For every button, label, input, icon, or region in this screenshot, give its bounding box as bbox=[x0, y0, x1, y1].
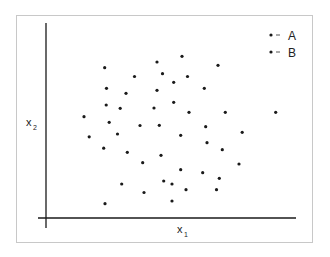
data-point bbox=[138, 124, 141, 127]
svg-text:B: B bbox=[288, 46, 296, 60]
data-point bbox=[158, 124, 161, 127]
data-point bbox=[203, 87, 206, 90]
data-point bbox=[152, 106, 155, 109]
data-point bbox=[205, 141, 208, 144]
data-point bbox=[186, 75, 189, 78]
data-point bbox=[172, 101, 175, 104]
data-point bbox=[179, 134, 182, 137]
data-point bbox=[172, 81, 175, 84]
data-point bbox=[241, 131, 244, 134]
data-point bbox=[108, 121, 111, 124]
chart-frame bbox=[17, 16, 313, 243]
data-point bbox=[105, 103, 108, 106]
data-point bbox=[237, 162, 240, 165]
data-point bbox=[119, 107, 122, 110]
scatter-chart: x 1 x 2 A B bbox=[0, 0, 330, 257]
svg-text:x: x bbox=[177, 223, 183, 235]
svg-text:2: 2 bbox=[33, 124, 37, 131]
data-point bbox=[155, 89, 158, 92]
svg-text:1: 1 bbox=[184, 231, 188, 238]
data-point bbox=[187, 111, 190, 114]
data-point bbox=[102, 147, 105, 150]
data-point bbox=[170, 182, 173, 185]
svg-text:A: A bbox=[288, 29, 296, 43]
data-point bbox=[170, 199, 173, 202]
data-point bbox=[201, 171, 204, 174]
data-point bbox=[142, 191, 145, 194]
data-point bbox=[141, 161, 144, 164]
data-point bbox=[216, 64, 219, 67]
data-point bbox=[116, 132, 119, 135]
data-point bbox=[215, 188, 218, 191]
data-point bbox=[88, 135, 91, 138]
data-point bbox=[103, 66, 106, 69]
svg-text:x: x bbox=[26, 116, 32, 128]
data-point bbox=[120, 182, 123, 185]
data-point bbox=[126, 151, 129, 154]
legend-dot-icon bbox=[269, 33, 272, 36]
data-point bbox=[124, 92, 127, 95]
data-point bbox=[184, 188, 187, 191]
data-point bbox=[162, 179, 165, 182]
data-point bbox=[82, 115, 85, 118]
data-point bbox=[105, 87, 108, 90]
data-point bbox=[274, 111, 277, 114]
data-point bbox=[179, 168, 182, 171]
data-point bbox=[204, 125, 207, 128]
data-point bbox=[224, 111, 227, 114]
data-point bbox=[155, 60, 158, 63]
data-point bbox=[103, 202, 106, 205]
data-point bbox=[161, 72, 164, 75]
data-point bbox=[221, 148, 224, 151]
data-point bbox=[218, 177, 221, 180]
data-point bbox=[133, 75, 136, 78]
data-point bbox=[180, 55, 183, 58]
data-point bbox=[159, 154, 162, 157]
legend-dot-icon bbox=[269, 50, 272, 53]
